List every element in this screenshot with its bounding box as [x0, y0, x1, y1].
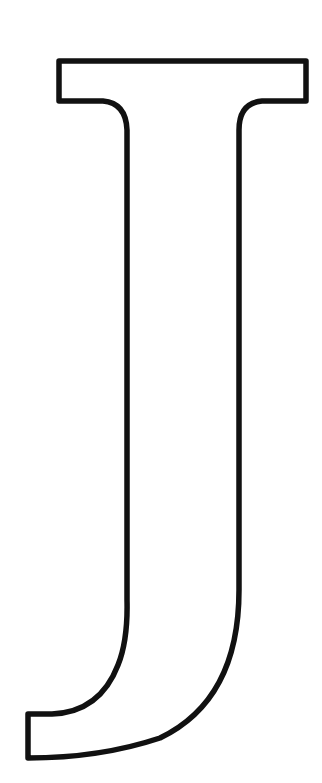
outline-letter-j [0, 0, 322, 783]
background [0, 0, 322, 783]
